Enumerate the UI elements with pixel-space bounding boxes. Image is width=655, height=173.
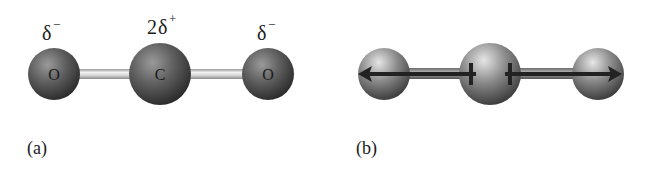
charge-delta: δ	[42, 22, 51, 44]
atom-carbon: C	[129, 43, 191, 105]
panel-label-a: (a)	[27, 138, 47, 159]
charge-sign: −	[53, 17, 60, 32]
charge-sign: −	[268, 17, 275, 32]
atom-symbol: O	[48, 66, 60, 83]
panel-b: (b)	[356, 43, 624, 159]
panel-a: O C O δ − 2 δ + δ − (a)	[27, 11, 294, 159]
bond-right-a	[186, 69, 248, 79]
co2-diagram: O C O δ − 2 δ + δ − (a)	[0, 0, 655, 173]
atom-oxygen-left: O	[28, 48, 80, 100]
charge-delta: δ	[257, 22, 266, 44]
charge-label-left: δ −	[42, 17, 60, 44]
charge-delta: δ	[158, 16, 167, 38]
atom-symbol: C	[155, 66, 166, 83]
bond-left-a	[76, 69, 136, 79]
charge-coefficient: 2	[147, 16, 157, 38]
panel-label-b: (b)	[356, 138, 377, 159]
charge-label-center: 2 δ +	[147, 11, 176, 38]
charge-label-right: δ −	[257, 17, 275, 44]
atom-oxygen-right: O	[242, 48, 294, 100]
charge-sign: +	[169, 11, 176, 26]
atom-symbol: O	[262, 66, 274, 83]
